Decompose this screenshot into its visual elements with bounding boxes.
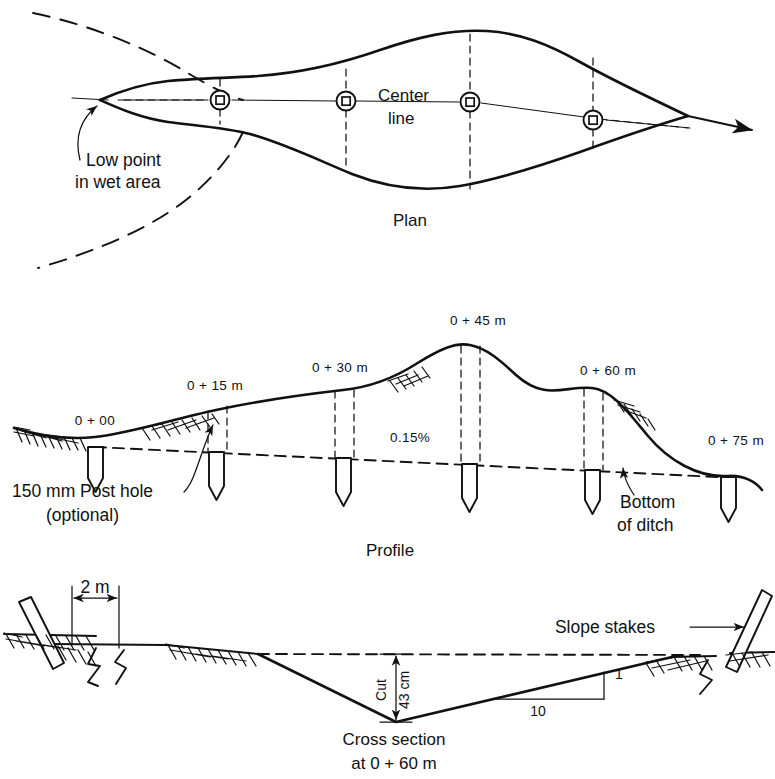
xs-slope-stakes-label: Slope stakes (555, 617, 655, 637)
xs-slope-stake-left (19, 597, 64, 669)
profile-station-label: 0 + 45 m (450, 313, 506, 328)
grade-stake (209, 452, 224, 500)
plan-view: Center line Low point in wet area Plan (33, 13, 752, 268)
xs-ditch-cut-line (258, 654, 672, 722)
xs-slope-run-label: 10 (530, 703, 546, 719)
xs-original-ground-dashed (258, 654, 700, 655)
grade-stake (585, 470, 600, 514)
cross-section-view: 2 m Cut 43 cm 10 1 Slope stakes Cross se… (4, 577, 775, 773)
survey-monument-symbol (461, 93, 480, 112)
post-hole-note-line2: (optional) (46, 505, 119, 525)
figure-sheet: Center line Low point in wet area Plan (0, 0, 775, 779)
profile-stake-guides (208, 346, 603, 470)
survey-monument-symbol (337, 92, 356, 111)
profile-ditch-grade-line (95, 447, 738, 478)
ditch-bottom-note-line2: of ditch (617, 515, 673, 535)
profile-grade-label: 0.15% (390, 430, 430, 445)
profile-view: 0 + 00 0 + 15 m 0 + 30 m 0 + 45 m 0 + 60… (12, 313, 764, 560)
low-point-note-line1: Low point (86, 150, 161, 170)
xs-caption-line1: Cross section (343, 730, 446, 749)
xs-caption-line2: at 0 + 60 m (351, 754, 437, 773)
xs-break-symbol-left2 (115, 650, 126, 684)
xs-width-dimension-label: 2 m (80, 577, 109, 597)
ditch-bottom-note-line1: Bottom (620, 492, 675, 512)
profile-ground-line (14, 344, 762, 490)
profile-caption: Profile (366, 541, 414, 560)
profile-station-label: 0 + 30 m (312, 360, 368, 375)
survey-monument-symbol (584, 111, 603, 130)
profile-station-label: 0 + 60 m (580, 363, 636, 378)
low-point-note-line2: in wet area (75, 172, 161, 192)
plan-centerline-label-line2: line (388, 109, 414, 128)
grade-stake (462, 464, 477, 512)
post-hole-note-line1: 150 mm Post hole (12, 481, 153, 501)
survey-monument-symbol (211, 91, 230, 110)
xs-break-symbol-left (88, 648, 100, 686)
xs-break-symbol-right (700, 660, 712, 694)
xs-cut-label: Cut (373, 679, 389, 701)
profile-station-label: 0 + 15 m (187, 378, 243, 393)
plan-centerline-label-line1: Center (378, 86, 429, 105)
xs-slope-rise-label: 1 (615, 666, 623, 682)
profile-station-label: 0 + 00 (75, 413, 115, 428)
profile-station-label: 0 + 75 m (708, 433, 764, 448)
plan-outflow-arrow (688, 116, 752, 130)
grade-stake (721, 477, 736, 522)
xs-slope-stake-right (726, 590, 772, 672)
xs-cut-depth-label: 43 cm (396, 671, 412, 709)
plan-caption: Plan (393, 211, 427, 230)
grade-stake (336, 458, 351, 506)
